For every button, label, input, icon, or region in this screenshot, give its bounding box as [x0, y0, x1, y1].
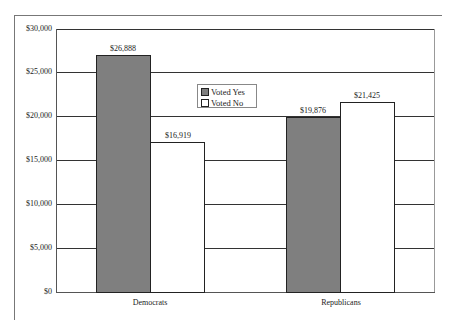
bar-republicans-voted-no: [340, 102, 395, 293]
chart-frame-top: [14, 15, 442, 16]
legend-item: Voted No: [201, 97, 253, 108]
x-category-label: Democrats: [100, 298, 200, 307]
data-label: $21,425: [332, 91, 402, 100]
y-tick-label: $10,000: [4, 200, 52, 208]
chart-frame-left: [14, 15, 15, 320]
y-tick-label: $5,000: [4, 244, 52, 252]
legend-swatch-icon: [201, 88, 209, 96]
legend-label: Voted No: [211, 98, 243, 108]
gridline-30000: [56, 29, 434, 30]
y-tick-label: $15,000: [4, 156, 52, 164]
bar-republicans-voted-yes: [286, 117, 341, 293]
data-label: $16,919: [143, 131, 213, 140]
bar-democrats-voted-no: [150, 142, 205, 293]
y-tick-label: $0: [4, 288, 52, 296]
x-category-label: Republicans: [291, 298, 391, 307]
y-tick-label: $20,000: [4, 112, 52, 120]
bar-democrats-voted-yes: [96, 55, 151, 293]
legend: Voted Yes Voted No: [197, 84, 257, 108]
y-tick-label: $25,000: [4, 68, 52, 76]
legend-swatch-icon: [201, 99, 209, 107]
y-tick-label: $30,000: [4, 25, 52, 33]
data-label: $19,876: [278, 106, 348, 115]
y-axis: [56, 29, 57, 293]
legend-label: Voted Yes: [211, 87, 245, 97]
data-label: $26,888: [88, 44, 158, 53]
legend-item: Voted Yes: [201, 86, 253, 97]
